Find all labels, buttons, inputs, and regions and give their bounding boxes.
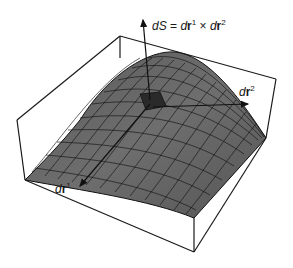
cross-product-sign: × [196,19,210,33]
d-symbol: d [239,85,246,99]
label-dr1: dr1 [55,182,71,196]
d-symbol: d [210,19,217,33]
d-symbol: d [55,182,62,196]
superscript-2: 2 [221,18,225,27]
superscript-1: 1 [66,181,70,190]
equals-sign: = [167,19,181,33]
surface-diagram [0,0,293,268]
label-dr2: dr2 [239,85,255,99]
label-dS-equation: dS = dr1 × dr2 [152,19,226,33]
superscript-2: 2 [250,84,254,93]
dS-symbol: dS [152,19,167,33]
